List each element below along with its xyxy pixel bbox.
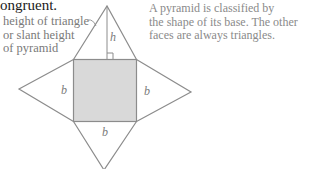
- pyramid-net-figure: ongruent. height of triangle or slant he…: [0, 0, 314, 169]
- right-face-label: b: [144, 85, 150, 97]
- bottom-face-label: b: [102, 126, 108, 138]
- top-triangle-face: [74, 6, 137, 60]
- net-drawing: [0, 0, 314, 169]
- top-height-label: h: [110, 31, 116, 43]
- right-angle-marker: [107, 53, 113, 60]
- square-base: [74, 60, 137, 122]
- left-face-label: b: [61, 84, 67, 96]
